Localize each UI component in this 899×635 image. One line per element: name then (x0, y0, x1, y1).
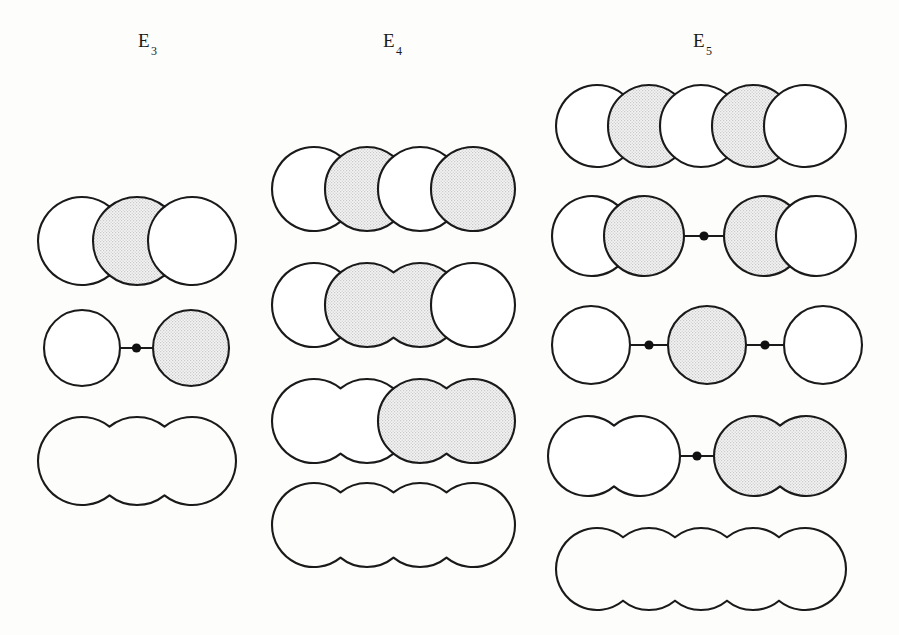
lobe-run (272, 263, 515, 347)
lobe-run (38, 197, 236, 285)
column-label-e3: E3 (138, 30, 157, 56)
e4-row-2 (268, 259, 519, 351)
column-label-letter: E (383, 30, 395, 51)
lobe-run (714, 416, 846, 496)
e3-row-2 (40, 306, 233, 390)
column-label-letter: E (138, 30, 150, 51)
lobe-run (548, 416, 680, 496)
lobe-run (724, 196, 856, 276)
e5-row-3 (548, 302, 866, 388)
chain-outline (556, 528, 846, 610)
column-label-letter: E (693, 30, 705, 51)
e5-row-1 (552, 81, 850, 171)
e5-row-4 (544, 412, 850, 500)
bond-dot (644, 340, 653, 349)
e4-row-3 (268, 375, 519, 467)
bond-dot (760, 340, 769, 349)
lobe-run (552, 196, 684, 276)
bond-dot (699, 231, 708, 240)
e5-row-2 (548, 192, 860, 280)
column-label-e4: E4 (383, 30, 402, 56)
lobe-run (556, 85, 846, 167)
e5-row-5 (552, 524, 850, 614)
chain-outline (38, 417, 236, 505)
column-label-subscript: 3 (151, 44, 158, 58)
chain-outline (272, 483, 515, 567)
e4-row-1 (268, 143, 519, 235)
lobe-run (272, 379, 515, 463)
e4-row-4 (268, 479, 519, 571)
bond-dot (692, 451, 701, 460)
column-label-subscript: 4 (396, 44, 403, 58)
e3-row-3 (34, 413, 240, 509)
lobe-run (272, 147, 515, 231)
diagram-canvas: E3E4E5 (0, 0, 899, 635)
e3-row-1 (34, 193, 240, 289)
column-label-subscript: 5 (706, 44, 713, 58)
column-label-e5: E5 (693, 30, 712, 56)
bond-dot (132, 343, 141, 352)
